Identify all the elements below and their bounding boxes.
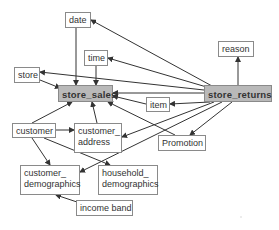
node-time[interactable]: time bbox=[84, 50, 108, 66]
node-household-demographics[interactable]: household_ demographics bbox=[98, 165, 158, 195]
node-income-band[interactable]: income band bbox=[76, 200, 133, 216]
node-store-sales[interactable]: store_sales bbox=[58, 85, 113, 102]
artifact-dot bbox=[240, 216, 242, 218]
node-customer-address[interactable]: customer_ address bbox=[74, 123, 122, 153]
schema-diagram: date time store store_sales item store_r… bbox=[0, 0, 279, 230]
node-store-returns[interactable]: store_returns bbox=[204, 85, 272, 102]
edge-store-store_sales bbox=[40, 80, 60, 88]
node-item[interactable]: item bbox=[146, 97, 170, 112]
node-date[interactable]: date bbox=[65, 12, 91, 28]
node-store[interactable]: store bbox=[14, 67, 40, 83]
node-customer[interactable]: customer bbox=[12, 123, 56, 138]
edge-customer-store_sales bbox=[32, 102, 72, 123]
node-reason[interactable]: reason bbox=[218, 41, 254, 57]
edge-customer_address-store_sales bbox=[92, 102, 97, 123]
relationship-edges bbox=[0, 0, 279, 230]
node-customer-demographics[interactable]: customer_ demographics bbox=[20, 165, 80, 195]
edge-store_returns-item bbox=[170, 102, 210, 104]
edge-store_returns-time bbox=[108, 58, 210, 88]
edge-store_returns-date bbox=[91, 20, 212, 86]
node-promotion[interactable]: Promotion bbox=[158, 135, 206, 151]
edge-item-store_sales bbox=[113, 96, 146, 104]
edge-customer-customer_demographics bbox=[32, 138, 50, 165]
